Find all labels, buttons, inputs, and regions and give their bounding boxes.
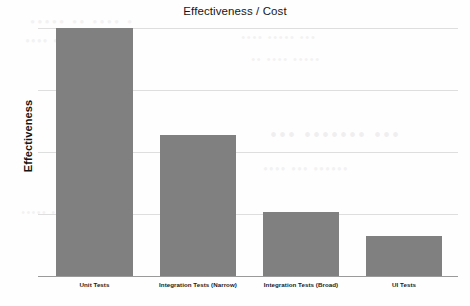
y-axis-label: Effectiveness xyxy=(22,76,34,196)
chart-title: Effectiveness / Cost xyxy=(0,5,470,17)
bar-chart-figure: • •••• •• ••••• •••••• •• •••• ••• •••••… xyxy=(0,0,470,306)
plot-area xyxy=(38,28,458,276)
x-axis-line xyxy=(38,276,458,277)
bar xyxy=(366,236,442,276)
bar xyxy=(263,212,339,276)
bar xyxy=(160,135,236,276)
x-tick-label: UI Tests xyxy=(341,281,467,288)
bar xyxy=(56,28,133,276)
